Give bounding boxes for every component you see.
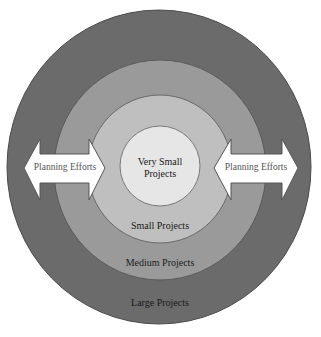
very-small-projects-label-line1: Very Small	[120, 156, 200, 168]
medium-projects-label: Medium Projects	[105, 257, 215, 269]
right-arrow-label: Planning Efforts	[220, 161, 292, 173]
small-projects-label: Small Projects	[110, 220, 210, 232]
large-projects-label: Large Projects	[110, 297, 210, 309]
left-arrow-label: Planning Efforts	[30, 161, 100, 173]
very-small-projects-label-line2: Projects	[120, 168, 200, 180]
very-small-projects-label: Very Small Projects	[120, 156, 200, 180]
